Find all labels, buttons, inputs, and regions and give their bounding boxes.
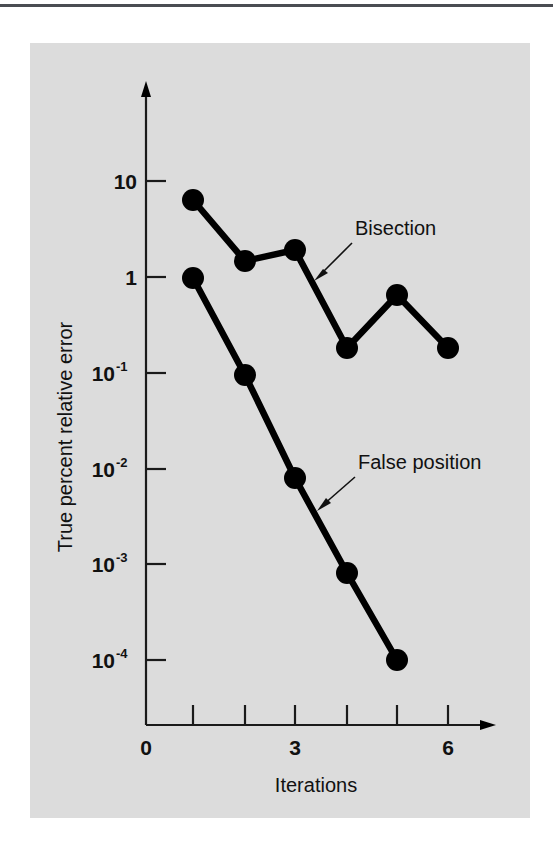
x-tick-label-0: 0 xyxy=(140,736,152,759)
data-point xyxy=(437,337,459,359)
y-axis xyxy=(141,81,151,725)
data-point xyxy=(234,250,256,272)
annotation-false-position: False position xyxy=(317,451,481,511)
annotation-bisection-label: Bisection xyxy=(355,217,436,239)
svg-text:10: 10 xyxy=(92,553,115,576)
data-point xyxy=(386,284,408,306)
annotation-bisection-arrowhead xyxy=(314,269,328,281)
figure-panel: 10 1 10 -1 10 -2 10 -3 10 -4 xyxy=(30,43,530,818)
page-canvas: 10 1 10 -1 10 -2 10 -3 10 -4 xyxy=(0,0,553,854)
data-point xyxy=(284,239,306,261)
data-point xyxy=(182,189,204,211)
x-tick-label-6: 6 xyxy=(442,736,454,759)
header-rule xyxy=(0,4,553,7)
y-tick-label-1: 1 xyxy=(125,266,137,289)
chart-plot: 10 1 10 -1 10 -2 10 -3 10 -4 xyxy=(30,43,530,818)
x-tick-label-3: 3 xyxy=(289,736,301,759)
y-tick-label-4-exponent: -3 xyxy=(116,550,128,565)
data-point xyxy=(336,562,358,584)
y-tick-label-2: 10 -1 xyxy=(92,359,128,385)
svg-text:10: 10 xyxy=(92,649,115,672)
x-axis-tick-labels: 0 3 6 xyxy=(140,736,454,759)
y-tick-label-5: 10 -4 xyxy=(92,646,129,672)
annotation-bisection: Bisection xyxy=(314,217,436,281)
annotation-false-position-label: False position xyxy=(358,451,481,473)
x-axis-title: Iterations xyxy=(275,774,357,796)
y-tick-label-3-exponent: -2 xyxy=(116,455,128,470)
y-tick-label-2-exponent: -1 xyxy=(116,359,128,374)
data-point xyxy=(182,267,204,289)
y-axis-ticks xyxy=(146,181,166,660)
y-tick-label-0: 10 xyxy=(114,170,137,193)
y-tick-label-4: 10 -3 xyxy=(92,550,128,576)
svg-text:10: 10 xyxy=(92,458,115,481)
svg-text:10: 10 xyxy=(92,362,115,385)
x-axis-ticks xyxy=(193,705,448,725)
data-point xyxy=(284,467,306,489)
y-axis-arrowhead xyxy=(141,81,151,97)
data-point xyxy=(234,364,256,386)
x-axis xyxy=(146,720,496,730)
data-point xyxy=(386,649,408,671)
data-point xyxy=(336,337,358,359)
y-tick-label-3: 10 -2 xyxy=(92,455,128,481)
y-tick-label-5-exponent: -4 xyxy=(116,646,128,661)
y-axis-title: True percent relative error xyxy=(54,321,76,552)
y-axis-tick-labels: 10 1 10 -1 10 -2 10 -3 10 -4 xyxy=(92,170,138,672)
x-axis-arrowhead xyxy=(480,720,496,730)
